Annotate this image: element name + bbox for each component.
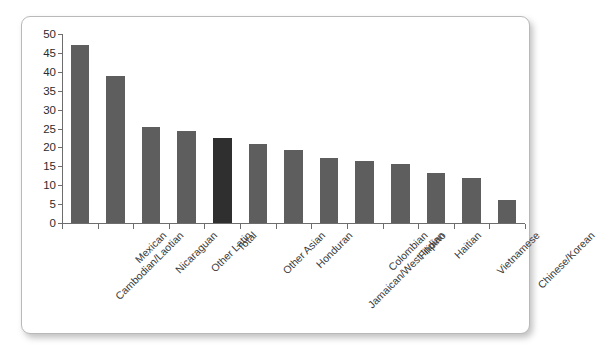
bar-honduran[interactable] <box>284 150 303 223</box>
bar-nicaraguan[interactable] <box>142 127 161 223</box>
bar-filipino[interactable] <box>391 164 410 223</box>
y-tick-label: 40 <box>34 64 56 80</box>
y-tick-label: 35 <box>34 83 56 99</box>
y-tick-label: 25 <box>34 121 56 137</box>
bar-total[interactable] <box>213 138 232 223</box>
bar-other-asian[interactable] <box>249 144 268 223</box>
y-tick-label: 20 <box>34 139 56 155</box>
y-tick-mark <box>58 147 63 148</box>
y-tick-label: 15 <box>34 158 56 174</box>
bar-jamaican-west-indian[interactable] <box>320 158 339 223</box>
y-tick-label: 0 <box>34 215 56 231</box>
bar-colombian[interactable] <box>355 161 374 223</box>
plot-area: 05101520253035404550 <box>62 34 525 223</box>
y-tick-label: 45 <box>34 45 56 61</box>
y-tick-mark <box>58 53 63 54</box>
x-axis-line <box>62 223 525 224</box>
y-tick-mark <box>58 110 63 111</box>
y-tick-label: 10 <box>34 177 56 193</box>
y-tick-label: 30 <box>34 102 56 118</box>
bar-mexican[interactable] <box>106 76 125 223</box>
bar-chinese-korean[interactable] <box>498 200 517 223</box>
bar-cambodian-laotian[interactable] <box>71 45 90 223</box>
y-tick-mark <box>58 72 63 73</box>
y-tick-mark <box>58 185 63 186</box>
bar-haitian[interactable] <box>427 173 446 223</box>
bar-other-latin[interactable] <box>177 131 196 223</box>
y-tick-label: 50 <box>34 26 56 42</box>
y-tick-label: 5 <box>34 196 56 212</box>
category-label: Total <box>235 229 259 253</box>
category-label: Chinese/Korean <box>535 229 597 291</box>
chart-card: 05101520253035404550 Cambodian/LaotianMe… <box>21 16 530 334</box>
y-tick-mark <box>58 34 63 35</box>
x-axis-category-labels: Cambodian/LaotianMexicanNicaraguanOther … <box>62 229 532 333</box>
category-label: Vietnamese <box>494 229 542 277</box>
category-label: Haitian <box>452 229 484 261</box>
y-tick-mark <box>58 166 63 167</box>
y-tick-mark <box>58 204 63 205</box>
y-tick-mark <box>58 129 63 130</box>
y-tick-mark <box>58 91 63 92</box>
bar-vietnamese[interactable] <box>462 178 481 223</box>
